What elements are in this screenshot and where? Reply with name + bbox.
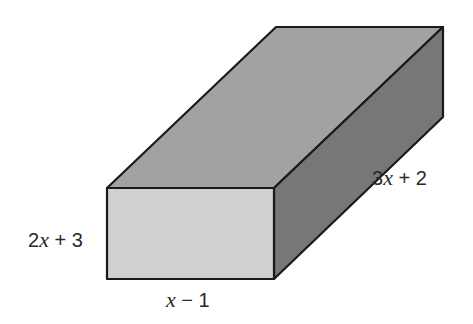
length-label: 3x + 2: [372, 167, 427, 189]
length-variable: x: [383, 165, 393, 190]
front-face: [107, 188, 274, 279]
length-constant: + 2: [393, 167, 427, 189]
width-constant: − 1: [176, 289, 210, 311]
height-variable: x: [39, 227, 49, 252]
height-constant: + 3: [49, 229, 83, 251]
height-coef: 2: [28, 229, 39, 251]
length-coef: 3: [372, 167, 383, 189]
height-label: 2x + 3: [28, 229, 83, 251]
width-label: x − 1: [166, 289, 210, 311]
width-variable: x: [166, 287, 176, 312]
rectangular-prism: [0, 0, 473, 324]
